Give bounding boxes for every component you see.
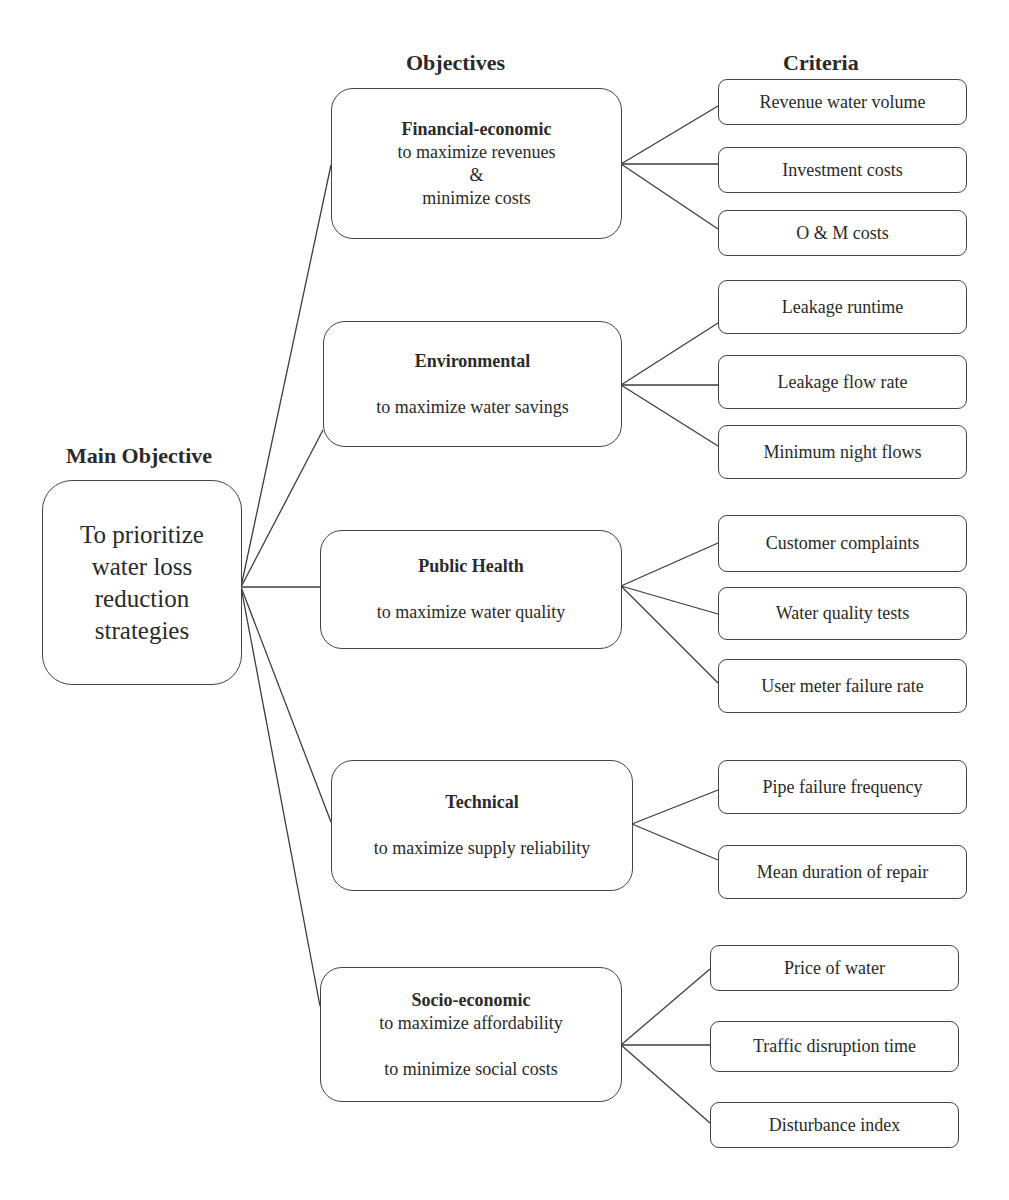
objective-environmental: Environmental to maximize water savings — [323, 321, 622, 447]
objective-title: Environmental — [415, 350, 531, 373]
objective-financial-economic: Financial-economic to maximize revenues … — [331, 88, 622, 239]
objective-goal: to maximize affordability — [379, 1012, 563, 1035]
objective-title: Socio-economic — [412, 989, 531, 1012]
objective-goal: to maximize water savings — [376, 396, 568, 419]
objective-public-health: Public Health to maximize water quality — [320, 530, 622, 649]
main-objective-line: To prioritize — [80, 519, 204, 551]
main-objective-line: reduction — [95, 583, 189, 615]
criterion-om-costs: O & M costs — [718, 210, 967, 256]
objective-socio-economic: Socio-economic to maximize affordability… — [320, 967, 622, 1102]
objective-goal: & — [469, 164, 483, 187]
criterion-leakage-runtime: Leakage runtime — [718, 280, 967, 334]
connector-main-socio-economic — [241, 587, 320, 1006]
main-objective-box: To prioritize water loss reduction strat… — [42, 480, 242, 685]
objective-goal: to maximize supply reliability — [374, 837, 590, 860]
criterion-disturbance-index: Disturbance index — [710, 1102, 959, 1148]
criterion-minimum-night-flows: Minimum night flows — [718, 425, 967, 479]
connector-main-technical — [241, 587, 331, 822]
objective-title: Financial-economic — [402, 118, 552, 141]
criterion-user-meter-failure-rate: User meter failure rate — [718, 659, 967, 713]
main-objective-line: water loss — [92, 551, 193, 583]
objective-title: Technical — [445, 791, 518, 814]
objective-goal: to minimize social costs — [384, 1058, 557, 1081]
connector-main-environmental — [241, 430, 323, 587]
connector-main-financial — [241, 165, 331, 587]
main-objective-heading: Main Objective — [66, 443, 212, 469]
objective-title: Public Health — [418, 555, 524, 578]
criterion-traffic-disruption-time: Traffic disruption time — [710, 1021, 959, 1072]
objective-goal: to maximize revenues — [398, 141, 556, 164]
main-objective-line: strategies — [95, 615, 189, 647]
criterion-revenue-water-volume: Revenue water volume — [718, 79, 967, 125]
criterion-mean-duration-of-repair: Mean duration of repair — [718, 845, 967, 899]
objective-goal: minimize costs — [422, 187, 530, 210]
criterion-price-of-water: Price of water — [710, 945, 959, 991]
criterion-pipe-failure-frequency: Pipe failure frequency — [718, 760, 967, 814]
objectives-heading: Objectives — [406, 50, 505, 76]
criterion-leakage-flow-rate: Leakage flow rate — [718, 355, 967, 409]
objective-technical: Technical to maximize supply reliability — [331, 760, 633, 891]
criterion-water-quality-tests: Water quality tests — [718, 587, 967, 640]
criteria-heading: Criteria — [783, 50, 859, 76]
criterion-customer-complaints: Customer complaints — [718, 515, 967, 572]
criterion-investment-costs: Investment costs — [718, 147, 967, 193]
objective-goal: to maximize water quality — [377, 601, 565, 624]
